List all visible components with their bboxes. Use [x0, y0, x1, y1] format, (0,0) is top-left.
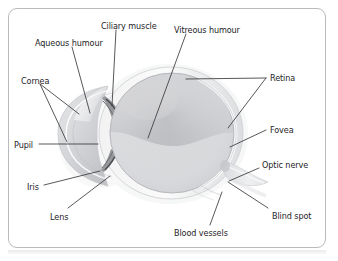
label-ciliary-muscle: Ciliary muscle: [101, 22, 157, 30]
leader-cornea-upper: [40, 84, 79, 114]
label-vitreous-humour: Vitreous humour: [174, 26, 240, 34]
label-blind-spot: Blind spot: [272, 212, 311, 220]
leader-cornea-lower: [40, 84, 67, 142]
label-optic-nerve: Optic nerve: [262, 161, 308, 169]
label-fovea: Fovea: [270, 126, 294, 134]
eye-diagram-figure: Ciliary muscle Vitreous humour Aqueous h…: [0, 0, 338, 261]
label-aqueous-humour: Aqueous humour: [35, 39, 103, 47]
label-blood-vessels: Blood vessels: [174, 229, 228, 237]
optic-nerve-stalk: [220, 160, 268, 196]
label-lens: Lens: [50, 213, 68, 221]
label-iris: Iris: [27, 183, 39, 191]
label-retina: Retina: [270, 74, 295, 82]
leader-blood-vessels: [210, 192, 222, 225]
label-pupil: Pupil: [14, 141, 33, 149]
label-cornea: Cornea: [21, 77, 49, 85]
